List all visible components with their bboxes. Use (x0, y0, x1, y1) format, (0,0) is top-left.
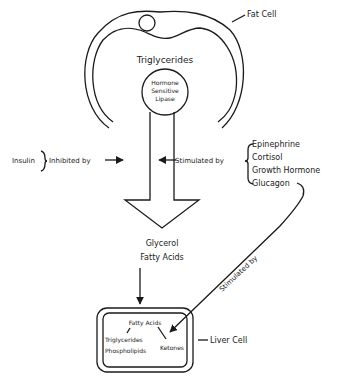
fat-cell-label: Fat Cell (247, 10, 276, 19)
svg-text:Hormone: Hormone (151, 79, 179, 86)
insulin-label: Insulin (12, 157, 35, 165)
product-fatty-acids: Fatty Acids (140, 253, 184, 262)
liver-fatty-acids: Fatty Acids (129, 319, 162, 327)
liver-output: Triglycerides (104, 336, 143, 344)
brace-icon (245, 144, 253, 184)
hormone-item: Epinephrine (252, 140, 300, 149)
lipolysis-diagram: Fat Cell Triglycerides Hormone Sensitive… (0, 0, 344, 384)
svg-text:Lipase: Lipase (155, 95, 175, 103)
triglycerides-label: Triglycerides (136, 55, 194, 65)
hormone-item: Glucagon (252, 179, 290, 188)
stimulated-by-label: Stimulated by (175, 157, 224, 165)
liver-output: Phospholipids (105, 347, 146, 355)
product-glycerol: Glycerol (146, 239, 179, 248)
hormone-item: Growth Hormone (252, 166, 320, 175)
nucleus-icon (139, 15, 155, 31)
hormone-item: Cortisol (252, 153, 282, 162)
glucagon-link-label: Stimulated by (218, 254, 259, 293)
lipolysis-arrow (125, 112, 199, 228)
inhibited-by-label: Inhibited by (49, 157, 91, 165)
liver-output-ketones: Ketones (160, 344, 184, 351)
svg-text:Sensitive: Sensitive (151, 87, 179, 94)
brace-icon (41, 151, 47, 171)
glucagon-link-arrow (170, 183, 304, 332)
liver-cell-label: Liver Cell (210, 336, 247, 345)
